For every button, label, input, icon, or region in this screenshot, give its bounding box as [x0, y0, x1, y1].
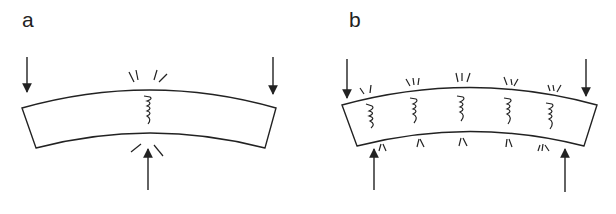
crack-tick: [129, 72, 134, 82]
crack-tick: [360, 88, 364, 94]
crack-tick: [553, 85, 554, 91]
crack-tick: [154, 70, 157, 80]
support-tick: [545, 145, 549, 151]
crack-tick: [370, 85, 371, 93]
support-tick: [379, 144, 381, 151]
support-tick: [509, 139, 512, 147]
support-tick: [459, 138, 461, 146]
support-tick: [506, 139, 507, 147]
beam-b: [342, 88, 597, 147]
support-tick: [420, 139, 424, 147]
crack-tick: [514, 79, 518, 86]
crack-tick: [136, 70, 138, 80]
support-tick: [154, 145, 163, 156]
support-tick: [417, 139, 419, 147]
crack-tick: [413, 78, 414, 85]
support-tick: [538, 145, 540, 151]
beam-a: [22, 90, 276, 148]
crack-tick: [406, 79, 410, 86]
crack-tick: [159, 74, 167, 82]
crack-tick: [467, 73, 470, 82]
crack-tick: [504, 77, 507, 85]
support-tick: [542, 144, 543, 151]
crack-tick: [557, 85, 561, 92]
crack-tick: [456, 73, 458, 82]
support-tick: [383, 144, 386, 151]
bending-diagram: [0, 0, 616, 214]
support-tick: [131, 144, 141, 152]
panel-a: [22, 57, 276, 190]
crack-tick: [418, 78, 419, 85]
crack-tick: [511, 79, 512, 85]
crack-tick: [548, 85, 550, 91]
support-tick: [463, 138, 467, 146]
panel-b: [342, 59, 597, 192]
